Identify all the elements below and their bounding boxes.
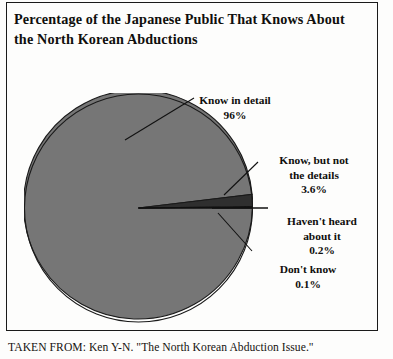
label-know-but-not-details-percent: 3.6% [262, 182, 366, 196]
label-know-but-not-details-text: Know, but not the details [279, 154, 348, 180]
label-dont-know-percent: 0.1% [256, 277, 360, 291]
label-havent-heard-text: Haven't heard about it [287, 215, 357, 241]
figure-page: Percentage of the Japanese Public That K… [0, 0, 393, 359]
label-know-in-detail-text: Know in detail [199, 94, 271, 106]
label-know-in-detail-percent: 96% [187, 108, 283, 122]
label-dont-know: Don't know 0.1% [256, 248, 360, 305]
source-caption: TAKEN FROM: Ken Y-N. "The North Korean A… [8, 340, 384, 355]
page-title: Percentage of the Japanese Public That K… [14, 10, 364, 49]
label-know-in-detail: Know in detail 96% [187, 79, 283, 136]
label-dont-know-text: Don't know [280, 263, 337, 275]
